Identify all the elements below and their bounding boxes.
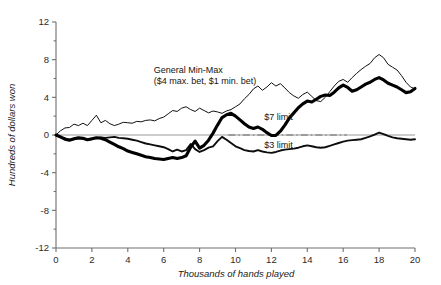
x-axis-title: Thousands of hands played	[178, 268, 295, 279]
x-tick-label: 20	[410, 254, 421, 265]
y-tick-label: -4	[41, 167, 49, 178]
y-tick-label: 12	[38, 16, 49, 27]
y-tick-label: -12	[35, 242, 49, 253]
y-axis-tick-labels: -12-8-404812	[35, 16, 49, 253]
x-tick-label: 2	[89, 254, 94, 265]
y-tick-label: 0	[44, 129, 49, 140]
x-tick-label: 12	[266, 254, 277, 265]
y-tick-label: 4	[44, 92, 49, 103]
general-min-max-subtitle: ($4 max. bet, $1 min. bet)	[154, 76, 257, 86]
line-chart: -12-8-404812 02468101214161820 Thousands…	[0, 0, 441, 285]
series-group	[56, 54, 415, 159]
seven-limit-label: $7 limit	[264, 112, 293, 122]
x-tick-label: 14	[302, 254, 313, 265]
x-tick-label: 8	[197, 254, 202, 265]
series-general-min-max	[56, 54, 415, 135]
annotation-general-min-max: General Min-Max ($4 max. bet, $1 min. be…	[154, 65, 257, 86]
x-tick-label: 16	[338, 254, 349, 265]
x-tick-label: 10	[230, 254, 241, 265]
y-tick-label: -8	[41, 205, 49, 216]
x-axis-ticks	[56, 248, 415, 252]
y-axis-title: Hundreds of dollars won	[6, 84, 17, 186]
chart-container: -12-8-404812 02468101214161820 Thousands…	[0, 0, 441, 285]
y-tick-label: 8	[44, 54, 49, 65]
three-limit-label: $3 limit	[264, 140, 293, 150]
x-tick-label: 18	[374, 254, 385, 265]
x-tick-label: 4	[125, 254, 130, 265]
general-min-max-title: General Min-Max	[154, 65, 224, 75]
x-axis-tick-labels: 02468101214161820	[53, 254, 420, 265]
x-tick-label: 0	[53, 254, 58, 265]
x-tick-label: 6	[161, 254, 166, 265]
